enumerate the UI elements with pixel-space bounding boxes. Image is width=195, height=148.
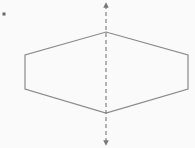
hexagon (25, 32, 188, 113)
hexagon-symmetry-diagram (0, 0, 195, 148)
bullet-dot (3, 13, 6, 16)
